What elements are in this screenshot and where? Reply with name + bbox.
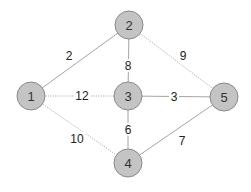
edge-weight-2-3: 8 — [125, 59, 132, 73]
edge-1-4 — [31, 96, 128, 163]
edge-weight-2-5: 9 — [180, 49, 187, 63]
edge-weight-3-5: 3 — [171, 90, 178, 104]
node-label-4: 4 — [124, 156, 131, 171]
node-1: 1 — [17, 82, 45, 110]
node-4: 4 — [114, 149, 142, 177]
edge-4-5 — [128, 97, 224, 163]
node-label-3: 3 — [124, 89, 131, 104]
nodes: 1 2 3 4 5 — [17, 11, 238, 177]
edge-1-2 — [31, 25, 129, 96]
edge-weight-1-3: 12 — [75, 89, 89, 103]
graph-diagram: 2 12 10 8 9 3 6 7 1 2 3 4 — [0, 0, 251, 192]
edge-weight-4-5: 7 — [179, 134, 186, 148]
edge-weight-1-2: 2 — [66, 49, 73, 63]
edge-weight-1-4: 10 — [70, 132, 84, 146]
edge-weight-3-4: 6 — [125, 123, 132, 137]
node-5: 5 — [210, 83, 238, 111]
node-3: 3 — [114, 82, 142, 110]
node-label-1: 1 — [27, 89, 34, 104]
node-2: 2 — [115, 11, 143, 39]
node-label-2: 2 — [125, 18, 132, 33]
node-label-5: 5 — [220, 90, 227, 105]
edge-2-5 — [129, 25, 224, 97]
